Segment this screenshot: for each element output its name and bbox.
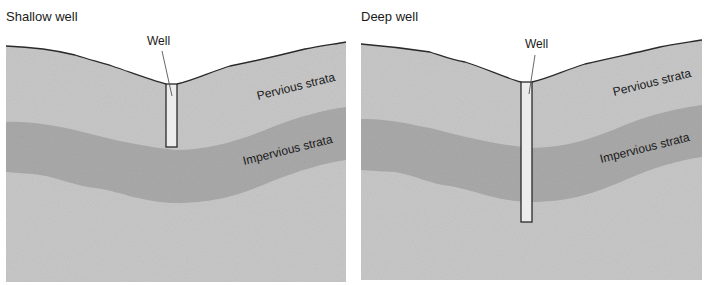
well-diagram: Well Pervious strata Impervious strata W… (0, 0, 706, 285)
deep-well-shaft (521, 82, 532, 222)
well-label: Well (147, 34, 170, 48)
shallow-well-panel: Well Pervious strata Impervious strata (6, 34, 346, 282)
deep-well-panel: Well Pervious strata Impervious strata (361, 37, 702, 280)
well-label: Well (525, 37, 548, 51)
